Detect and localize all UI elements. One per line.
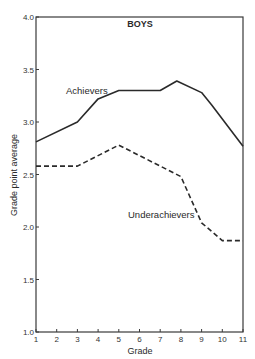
x-tick-label: 4 <box>96 335 101 344</box>
x-tick-label: 9 <box>199 335 204 344</box>
y-tick-label: 3.0 <box>23 118 35 127</box>
y-tick-label: 2.0 <box>23 223 35 232</box>
y-axis-title: Grade point average <box>9 134 19 216</box>
x-tick-label: 8 <box>179 335 184 344</box>
x-tick-label: 10 <box>218 335 227 344</box>
y-tick-label: 2.5 <box>23 171 35 180</box>
underachievers-line <box>36 145 243 241</box>
x-tick-label: 2 <box>54 335 59 344</box>
x-tick-label: 1 <box>34 335 39 344</box>
x-tick-label: 5 <box>117 335 122 344</box>
plot-frame <box>36 17 243 332</box>
underachievers-label: Underachievers <box>128 209 195 220</box>
x-tick-label: 3 <box>75 335 80 344</box>
y-tick-label: 1.5 <box>23 276 35 285</box>
line-chart: 1.01.52.02.53.03.54.0 1234567891011 BOYS… <box>0 0 255 359</box>
chart-title: BOYS <box>127 19 153 29</box>
x-axis-title: Grade <box>127 346 152 356</box>
x-tick-label: 11 <box>239 335 248 344</box>
x-tick-label: 7 <box>158 335 163 344</box>
x-axis-ticks: 1234567891011 <box>34 329 248 344</box>
achievers-label: Achievers <box>66 85 108 96</box>
y-tick-label: 3.5 <box>23 66 35 75</box>
x-tick-label: 6 <box>137 335 142 344</box>
y-tick-label: 4.0 <box>23 13 35 22</box>
